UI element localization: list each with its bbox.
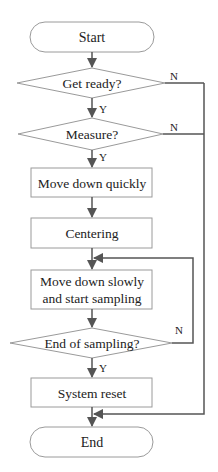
get-ready-decision: Get ready?: [17, 68, 165, 98]
measure-no-label: N: [170, 121, 178, 133]
end-node: End: [30, 427, 153, 457]
reset-process: System reset: [31, 378, 152, 407]
reset-label: System reset: [58, 386, 127, 401]
end-label: End: [81, 435, 104, 450]
end-sampling-label: End of sampling?: [44, 336, 139, 351]
end-sampling-no-label: N: [175, 324, 183, 336]
flowchart: Start Get ready? N Y Measure? N Y Move d…: [0, 0, 218, 472]
end-sampling-yes-label: Y: [99, 362, 107, 374]
measure-yes-label: Y: [99, 151, 107, 163]
get-ready-yes-label: Y: [99, 103, 107, 115]
move-quick-process: Move down quickly: [31, 168, 152, 197]
measure-decision: Measure?: [18, 118, 163, 150]
move-slow-process: Move down slowly and start sampling: [31, 270, 152, 309]
move-slow-label-1: Move down slowly: [40, 274, 144, 289]
centering-label: Centering: [65, 226, 118, 241]
get-ready-label: Get ready?: [63, 76, 122, 91]
move-slow-label-2: and start sampling: [43, 291, 142, 306]
start-label: Start: [79, 30, 106, 45]
get-ready-no-label: N: [170, 70, 178, 82]
move-quick-label: Move down quickly: [38, 176, 147, 191]
measure-label: Measure?: [66, 127, 118, 142]
end-sampling-decision: End of sampling?: [10, 328, 172, 358]
start-node: Start: [30, 22, 154, 52]
centering-process: Centering: [31, 218, 152, 248]
